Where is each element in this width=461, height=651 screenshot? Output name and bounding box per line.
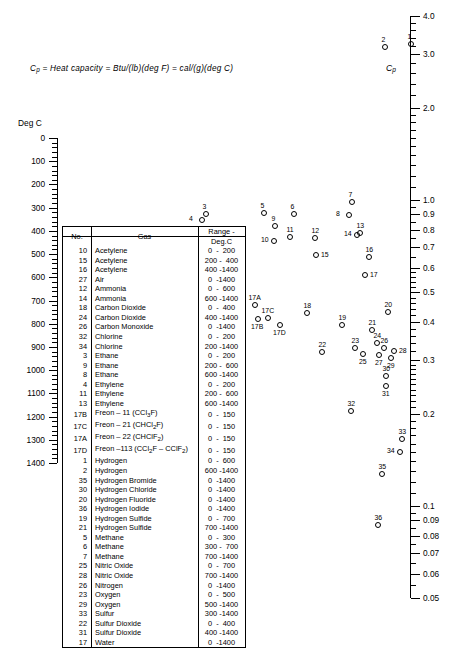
right-axis-tick	[411, 360, 420, 361]
index-point-17A	[252, 302, 258, 308]
index-point-22	[319, 349, 325, 355]
left-axis-minor-tick	[52, 263, 57, 264]
left-axis-minor-tick	[52, 375, 57, 376]
right-axis-tick	[411, 230, 420, 231]
right-axis-minor-tick	[411, 428, 416, 429]
table-header-divider	[62, 236, 245, 237]
right-axis-minor-tick	[411, 329, 416, 330]
index-point-label-20: 20	[385, 301, 393, 308]
index-point-label-19: 19	[339, 314, 347, 321]
index-point-label-3: 3	[203, 203, 207, 210]
index-point-20	[385, 309, 391, 315]
right-axis-minor-tick	[411, 287, 416, 288]
left-axis-tick	[49, 254, 57, 255]
left-axis-tick-label: 0	[5, 133, 45, 143]
left-axis-minor-tick	[52, 240, 57, 241]
index-point-label-28: 28	[399, 347, 407, 354]
right-axis-minor-tick	[411, 115, 416, 116]
caption-rest: = Heat capacity = Btu/(lb)(deg F) = cal/…	[43, 64, 234, 73]
left-axis-tick-label: 1100	[5, 388, 45, 398]
left-axis-tick	[49, 184, 57, 185]
index-point-8	[346, 212, 352, 218]
right-axis-minor-tick	[411, 365, 416, 366]
left-axis-tick	[49, 417, 57, 418]
right-axis-tick-label: 1.0	[423, 195, 435, 205]
left-axis-minor-tick	[52, 282, 57, 283]
index-point-1	[408, 41, 414, 47]
left-axis-minor-tick	[52, 222, 57, 223]
right-axis-minor-tick	[411, 421, 416, 422]
right-axis-title: Cp	[386, 63, 396, 73]
left-axis-minor-tick	[52, 236, 57, 237]
left-axis-minor-tick	[52, 180, 57, 181]
index-point-32	[348, 408, 354, 414]
left-axis-minor-tick	[52, 296, 57, 297]
index-point-label-17C: 17C	[262, 307, 275, 314]
left-axis-tick	[49, 324, 57, 325]
right-axis-minor-tick	[411, 176, 416, 177]
right-axis-minor-tick	[411, 513, 416, 514]
left-axis-tick	[49, 301, 57, 302]
left-axis-minor-tick	[52, 245, 57, 246]
left-axis-tick-label: 300	[5, 203, 45, 213]
left-axis-tick-label: 100	[5, 156, 45, 166]
index-point-14	[354, 232, 360, 238]
left-axis-minor-tick	[52, 319, 57, 320]
index-point-26	[381, 345, 387, 351]
index-point-label-31: 31	[382, 390, 390, 397]
right-axis-minor-tick	[411, 461, 416, 462]
left-axis-tick	[49, 393, 57, 394]
right-axis-minor-tick	[411, 23, 416, 24]
index-point-label-4: 4	[189, 215, 193, 222]
index-point-label-23: 23	[352, 337, 360, 344]
table-border	[62, 226, 246, 648]
left-axis-minor-tick	[52, 449, 57, 450]
right-axis-minor-tick	[411, 84, 416, 85]
left-axis-minor-tick	[52, 314, 57, 315]
right-axis-tick-label: 0.5	[423, 287, 435, 297]
left-axis-minor-tick	[52, 291, 57, 292]
index-point-34	[397, 449, 403, 455]
right-axis-tick	[411, 292, 420, 293]
index-point-3	[203, 211, 209, 217]
left-axis-tick-label: 700	[5, 296, 45, 306]
left-axis-minor-tick	[52, 431, 57, 432]
index-point-27	[376, 352, 382, 358]
right-axis-tick	[411, 322, 420, 323]
index-point-label-2: 2	[382, 36, 386, 43]
right-axis-minor-tick	[411, 165, 416, 166]
right-axis-minor-tick	[411, 390, 416, 391]
left-axis-tick-label: 1200	[5, 412, 45, 422]
right-axis-minor-tick	[411, 309, 416, 310]
index-point-19	[339, 322, 345, 328]
index-point-5	[261, 210, 267, 216]
left-axis-minor-tick	[52, 305, 57, 306]
right-axis-tick-label: 0.1	[423, 501, 435, 511]
right-axis-minor-tick	[411, 130, 416, 131]
table-col-divider-no	[91, 226, 92, 648]
table-col-divider-range	[198, 226, 199, 648]
right-axis-minor-tick	[411, 38, 416, 39]
left-axis-minor-tick	[52, 273, 57, 274]
left-axis-minor-tick	[52, 379, 57, 380]
index-point-18	[304, 310, 310, 316]
right-axis-minor-tick	[411, 187, 416, 188]
index-point-label-6: 6	[291, 203, 295, 210]
right-axis-minor-tick	[411, 277, 416, 278]
right-axis-minor-tick	[411, 452, 416, 453]
right-axis-tick	[411, 54, 420, 55]
left-axis-tick-label: 1400	[5, 458, 45, 468]
index-point-label-26: 26	[381, 337, 389, 344]
right-axis-minor-tick	[411, 343, 416, 344]
right-axis-tick-label: 3.0	[423, 49, 435, 59]
left-axis-minor-tick	[52, 342, 57, 343]
left-axis-tick	[49, 231, 57, 232]
left-axis-minor-tick	[52, 444, 57, 445]
right-axis-tick-label: 0.7	[423, 242, 435, 252]
index-point-label-9: 9	[272, 215, 276, 222]
left-axis-tick	[49, 347, 57, 348]
right-axis-tick-label: 0.9	[423, 209, 435, 219]
index-point-17B	[255, 316, 261, 322]
right-axis-tick	[411, 247, 420, 248]
left-axis-tick	[49, 138, 57, 139]
